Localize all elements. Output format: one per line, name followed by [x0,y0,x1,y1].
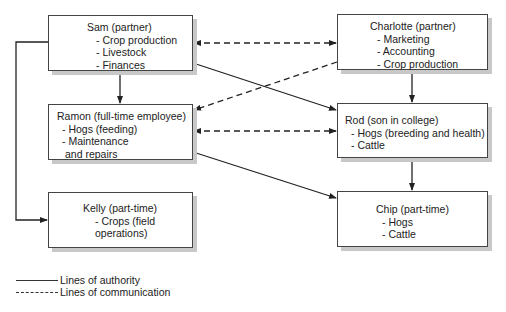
node-item: and repairs [65,148,192,161]
node-title: Chip (part-time) [376,203,487,216]
node-item: - Cattle [382,228,487,241]
node-item: - Finances [96,59,192,72]
node-item: - Hogs [382,216,487,229]
node-rod: Rod (son in college) - Hogs (breeding an… [337,103,488,158]
node-item: - Cattle [351,139,487,152]
legend-label: Lines of authority [60,274,140,286]
node-title: Sam (partner) [87,21,192,34]
node-title: Ramon (full-time employee) [57,110,192,123]
edge-ramon-chip [193,152,336,198]
node-charlotte: Charlotte (partner) - Marketing - Accoun… [337,14,488,70]
node-item: - Crop production [377,58,487,71]
node-chip: Chip (part-time) - Hogs - Cattle [337,191,488,247]
solid-line-swatch [16,280,58,281]
node-item: operations) [95,227,192,240]
edge-sam-kelly [16,42,48,220]
node-item: - Hogs (feeding) [62,123,192,136]
legend-authority: Lines of authority [16,274,170,286]
dashed-line-swatch [16,292,58,293]
node-ramon: Ramon (full-time employee) - Hogs (feedi… [48,104,193,160]
node-item: - Accounting [377,45,487,58]
legend: Lines of authority Lines of communicatio… [16,274,170,298]
node-item: - Maintenance [62,135,192,148]
node-item: - Marketing [377,33,487,46]
node-title: Kelly (part-time) [83,202,192,215]
node-item: - Hogs (breeding and health) [351,127,487,140]
node-sam: Sam (partner) - Crop production - Livest… [48,15,193,71]
legend-label: Lines of communication [60,286,170,298]
node-item: - Crop production [96,34,192,47]
node-title: Charlotte (partner) [370,20,487,33]
node-item: - Crops (field [95,215,192,228]
node-title: Rod (son in college) [345,114,487,127]
node-item: - Livestock [96,46,192,59]
legend-communication: Lines of communication [16,286,170,298]
node-kelly: Kelly (part-time) - Crops (field operati… [48,192,193,248]
